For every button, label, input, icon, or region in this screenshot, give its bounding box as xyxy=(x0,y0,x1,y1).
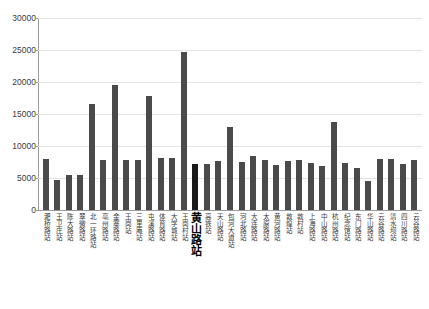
bar[interactable] xyxy=(239,162,245,210)
bar-slot[interactable] xyxy=(374,18,386,210)
bar-slot[interactable] xyxy=(316,18,328,210)
bar-slot[interactable] xyxy=(121,18,133,210)
bar-slot[interactable] xyxy=(86,18,98,210)
bar[interactable] xyxy=(123,160,129,210)
x-axis-label-slot: 河北路站 xyxy=(236,212,248,309)
bar[interactable] xyxy=(285,161,291,210)
bar-slot[interactable] xyxy=(293,18,305,210)
bar-slot[interactable] xyxy=(385,18,397,210)
x-axis-label-slot: 天山路站 xyxy=(213,212,225,309)
bar[interactable] xyxy=(342,163,348,210)
bar[interactable] xyxy=(100,160,106,210)
y-axis-tick-label: 20000 xyxy=(0,78,36,86)
bar-slot[interactable] xyxy=(109,18,121,210)
bar-slot[interactable] xyxy=(213,18,225,210)
bar[interactable] xyxy=(43,159,49,210)
y-axis-ticks: 050001000015000200002500030000 xyxy=(0,18,36,210)
bar-chart: 050001000015000200002500030000 淝桥路站王卫庄站陈… xyxy=(0,0,429,309)
x-axis-label-slot: 王卫庄站 xyxy=(52,212,64,309)
x-axis-tick-label: 金寨路站 xyxy=(111,213,118,241)
bar-slot[interactable] xyxy=(362,18,374,210)
bar[interactable] xyxy=(215,161,221,210)
bar-slot[interactable] xyxy=(190,18,202,210)
bar[interactable] xyxy=(388,159,394,210)
bar-slot[interactable] xyxy=(247,18,259,210)
bar[interactable] xyxy=(112,85,118,210)
x-axis-tick-label: 包河大道站 xyxy=(227,213,234,248)
x-axis-label-slot: 高铁站 xyxy=(201,212,213,309)
bar[interactable] xyxy=(411,160,417,210)
bar[interactable] xyxy=(296,160,302,210)
bar-slot[interactable] xyxy=(305,18,317,210)
x-axis-label-slot: 上海路站 xyxy=(305,212,317,309)
bar-slot[interactable] xyxy=(52,18,64,210)
bar[interactable] xyxy=(250,156,256,210)
x-axis-label-slot: 杭州路站 xyxy=(328,212,340,309)
x-axis-label-slot: 金寨路站 xyxy=(109,212,121,309)
bar[interactable] xyxy=(319,166,325,210)
x-axis-tick-label: 陈大路站 xyxy=(65,213,72,241)
bar[interactable] xyxy=(54,180,60,210)
bar-slot[interactable] xyxy=(167,18,179,210)
bar-slot[interactable] xyxy=(178,18,190,210)
bar-slot[interactable] xyxy=(144,18,156,210)
bar-slot[interactable] xyxy=(224,18,236,210)
bar[interactable] xyxy=(146,96,152,210)
y-axis-tick-label: 25000 xyxy=(0,46,36,54)
bar[interactable] xyxy=(135,160,141,210)
bar-slot[interactable] xyxy=(132,18,144,210)
bar-slot[interactable] xyxy=(40,18,52,210)
x-axis-label-slot: 清水坝站 xyxy=(385,212,397,309)
x-axis-label-slot: 翠微路站 xyxy=(75,212,87,309)
bar[interactable] xyxy=(169,158,175,210)
x-axis-tick-label: 杭州路站 xyxy=(330,213,337,241)
bar-slot[interactable] xyxy=(259,18,271,210)
bar[interactable] xyxy=(273,165,279,210)
x-axis-tick-label: 清水坝站 xyxy=(388,213,395,241)
x-axis-label-slot: 大连路站 xyxy=(247,212,259,309)
bar-slot[interactable] xyxy=(75,18,87,210)
y-axis-tick-label: 0 xyxy=(0,206,36,214)
y-axis-tick-label: 15000 xyxy=(0,110,36,118)
bar-slot[interactable] xyxy=(98,18,110,210)
bar-slot[interactable] xyxy=(328,18,340,210)
bar-slot[interactable] xyxy=(282,18,294,210)
bar[interactable] xyxy=(77,175,83,210)
bar[interactable] xyxy=(89,104,95,210)
x-axis-tick-label: 敦煌站 xyxy=(284,213,291,234)
bar-slot[interactable] xyxy=(397,18,409,210)
bar[interactable] xyxy=(308,163,314,210)
bar[interactable] xyxy=(365,181,371,210)
x-axis-label-slot: 包河大道站 xyxy=(224,212,236,309)
bar[interactable] xyxy=(192,164,198,210)
bar-slot[interactable] xyxy=(339,18,351,210)
x-axis-line xyxy=(38,210,422,211)
x-axis-tick-label: 云谷路站 xyxy=(411,213,418,241)
x-axis-label-slot: 王岗站 xyxy=(121,212,133,309)
x-axis-label-slot: 王岗村站 xyxy=(178,212,190,309)
bar-slot[interactable] xyxy=(201,18,213,210)
bar[interactable] xyxy=(400,164,406,210)
x-axis-label-slot: 北一环路站 xyxy=(86,212,98,309)
bar-slot[interactable] xyxy=(236,18,248,210)
bar-slot[interactable] xyxy=(63,18,75,210)
x-axis-tick-label: 王岗站 xyxy=(123,213,130,234)
bar[interactable] xyxy=(377,159,383,210)
bar-slot[interactable] xyxy=(155,18,167,210)
bar[interactable] xyxy=(181,52,187,210)
x-axis-tick-label: 王卫庄站 xyxy=(54,213,61,241)
bar-slot[interactable] xyxy=(409,18,421,210)
bar[interactable] xyxy=(204,164,210,210)
x-axis-tick-label: 大学城站 xyxy=(169,213,176,241)
bar[interactable] xyxy=(262,160,268,210)
bar-slot[interactable] xyxy=(351,18,363,210)
x-axis-tick-label: 东门路站 xyxy=(353,213,360,241)
bar[interactable] xyxy=(354,168,360,210)
bar[interactable] xyxy=(158,158,164,210)
bar[interactable] xyxy=(227,127,233,210)
x-axis-label-slot: 云谷路站 xyxy=(374,212,386,309)
x-axis-tick-label: 大连路站 xyxy=(250,213,257,241)
bar[interactable] xyxy=(66,175,72,210)
bar-slot[interactable] xyxy=(270,18,282,210)
bar[interactable] xyxy=(331,122,337,210)
